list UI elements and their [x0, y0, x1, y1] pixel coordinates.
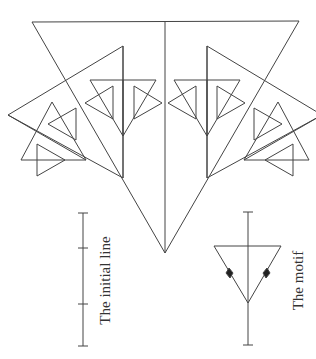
fractal-figure — [0, 0, 316, 359]
fractal-tree — [8, 21, 316, 253]
fractal-diagram: The initial line The motif — [0, 0, 316, 359]
initial-line-label: The initial line — [97, 221, 114, 341]
initial-line — [78, 213, 88, 346]
motif-label: The motif — [290, 241, 307, 321]
motif — [214, 212, 281, 345]
